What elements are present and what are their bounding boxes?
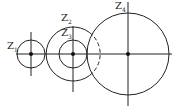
z4-center-dot bbox=[126, 52, 130, 56]
label-z1: Z1 bbox=[7, 41, 18, 53]
label-z2: Z2 bbox=[61, 13, 72, 25]
label-z4: Z4 bbox=[115, 1, 126, 13]
z1-center-dot bbox=[29, 52, 33, 56]
gear-diagram: Z1 Z2 Z3 Z4 bbox=[0, 0, 176, 107]
z2-z3-center-dot bbox=[71, 52, 75, 56]
label-z3: Z3 bbox=[61, 28, 72, 40]
gear-drawing bbox=[0, 0, 176, 107]
